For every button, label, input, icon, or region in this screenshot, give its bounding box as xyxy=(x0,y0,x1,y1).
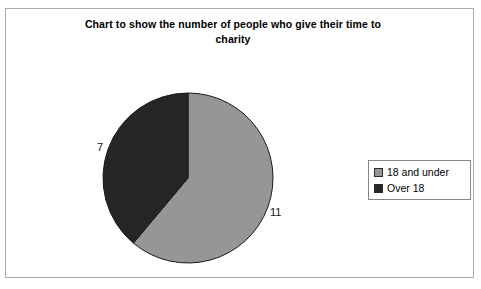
pie-chart-svg xyxy=(0,0,481,289)
legend-label-18-and-under: 18 and under xyxy=(387,166,449,178)
legend-swatch-18-and-under xyxy=(374,168,383,177)
legend-item-over-18[interactable]: Over 18 xyxy=(374,180,466,196)
pie-chart xyxy=(0,0,481,289)
legend-item-18-and-under[interactable]: 18 and under xyxy=(374,164,466,180)
slice-value-label-18-and-under: 11 xyxy=(270,206,281,218)
slice-value-label-over-18: 7 xyxy=(97,141,103,153)
pie-slice-group xyxy=(103,93,273,263)
legend-swatch-over-18 xyxy=(374,184,383,193)
chart-canvas: Chart to show the number of people who g… xyxy=(0,0,481,289)
legend-label-over-18: Over 18 xyxy=(387,182,424,194)
chart-legend: 18 and under Over 18 xyxy=(368,160,471,200)
